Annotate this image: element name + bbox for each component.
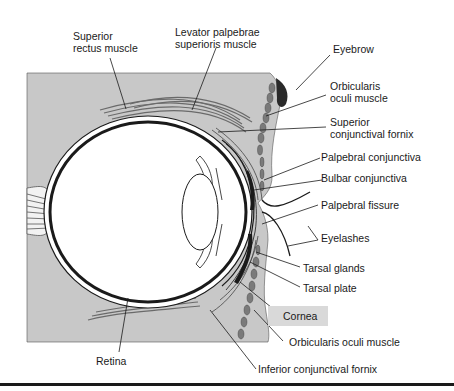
bottom-divider [0, 383, 454, 386]
eye-anatomy-diagram [0, 0, 454, 391]
eyebrow-shape [276, 78, 288, 107]
label-eyebrow: Eyebrow [333, 43, 374, 55]
label-levator: Levator palpebrae superioris muscle [175, 26, 260, 50]
label-line: Superior [73, 30, 138, 42]
label-inferior-fornix: Inferior conjunctival fornix [258, 363, 377, 375]
label-superior-rectus: Superior rectus muscle [73, 30, 138, 54]
label-line: conjunctival fornix [330, 128, 413, 140]
label-line: superioris muscle [175, 38, 260, 50]
label-line: Superior [330, 116, 413, 128]
label-palpebral-fissure: Palpebral fissure [321, 199, 399, 211]
label-retina: Retina [96, 355, 126, 367]
lens [182, 174, 218, 250]
label-line: oculi muscle [330, 92, 388, 104]
label-orbicularis-lower: Orbicularis oculi muscle [289, 336, 400, 348]
label-line: Orbicularis [330, 80, 388, 92]
label-line: rectus muscle [73, 42, 138, 54]
label-cornea: Cornea [283, 310, 317, 322]
label-palpebral-conjunctiva: Palpebral conjunctiva [321, 151, 421, 163]
eyelashes-shape [262, 192, 310, 256]
label-line: Levator palpebrae [175, 26, 260, 38]
label-bulbar-conjunctiva: Bulbar conjunctiva [321, 172, 407, 184]
label-eyelashes: Eyelashes [321, 232, 369, 244]
label-superior-fornix: Superior conjunctival fornix [330, 116, 413, 140]
label-tarsal-plate: Tarsal plate [303, 282, 357, 294]
label-orbicularis-upper: Orbicularis oculi muscle [330, 80, 388, 104]
label-tarsal-glands: Tarsal glands [303, 262, 365, 274]
